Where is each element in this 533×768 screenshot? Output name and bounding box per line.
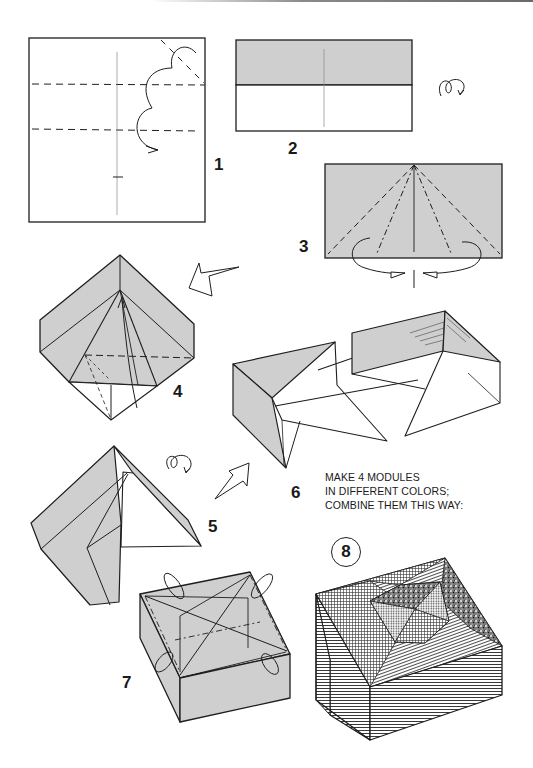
- turn-over-icon-step5: [167, 455, 191, 473]
- step-number-4: 4: [173, 383, 182, 400]
- hollow-arrow-left: [189, 263, 239, 296]
- step-number-3: 3: [299, 238, 308, 255]
- note-line: IN DIFFERENT COLORS;: [325, 484, 463, 498]
- step-number-5: 5: [208, 518, 217, 535]
- step-3-figure: [325, 164, 502, 288]
- step-number-1: 1: [214, 156, 223, 173]
- step-6-figure: [233, 311, 500, 468]
- step-4-figure: [40, 255, 194, 420]
- turn-over-icon: [439, 79, 464, 96]
- step-8-figure: [316, 558, 502, 740]
- step-2-figure: [236, 40, 464, 131]
- step-number-7: 7: [122, 674, 131, 691]
- step-1-figure: [29, 38, 205, 222]
- diagram-artwork: [0, 0, 533, 768]
- instruction-note: MAKE 4 MODULES IN DIFFERENT COLORS; COMB…: [325, 470, 463, 512]
- step-number-2: 2: [288, 140, 297, 157]
- diagram-page: 1 2 3 4 5 6 7 8 MAKE 4 MODULES IN DIFFER…: [0, 0, 533, 768]
- step-number-6: 6: [291, 484, 300, 501]
- note-line: MAKE 4 MODULES: [325, 470, 463, 484]
- step-7-figure: [140, 570, 290, 722]
- hollow-arrow-up-right: [215, 463, 249, 499]
- note-line: COMBINE THEM THIS WAY:: [325, 498, 463, 512]
- step-number-8-circled: 8: [331, 537, 361, 567]
